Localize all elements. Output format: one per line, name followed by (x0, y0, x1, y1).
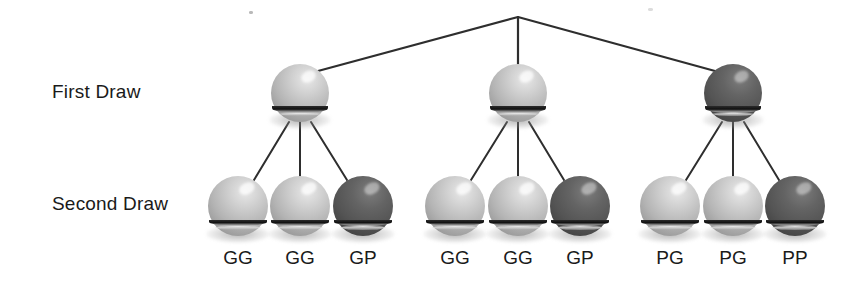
edge-first-to-second-n1-1 (254, 122, 289, 180)
ball-glare (237, 180, 256, 197)
second-draw-ball-9-P (765, 176, 825, 236)
outcome-label-3: GP (323, 247, 403, 269)
ball-belt (551, 217, 609, 231)
ball-belt (426, 217, 484, 231)
ball-glare (362, 180, 381, 197)
second-draw-ball-5-G (488, 176, 548, 236)
ball-glare (299, 180, 318, 197)
ball-belt (334, 217, 392, 231)
second-draw-ball-8-G (703, 176, 763, 236)
ball-glare (299, 68, 317, 85)
ball-glare (517, 180, 536, 197)
ball-belt (271, 217, 329, 231)
first-draw-ball-3-P (704, 64, 762, 122)
first-draw-ball-1-G (271, 64, 329, 122)
ball-glare (517, 68, 535, 85)
scan-speck (648, 8, 653, 11)
edge-first-to-second-n2-1 (471, 122, 507, 180)
ball-belt (766, 217, 824, 231)
ball-belt (641, 217, 699, 231)
ball-belt (490, 103, 546, 116)
edge-first-to-second-n2-3 (529, 122, 564, 180)
second-draw-ball-4-G (425, 176, 485, 236)
edge-root-to-first-draw-1 (318, 17, 518, 71)
second-draw-ball-3-P (333, 176, 393, 236)
ball-belt (209, 217, 267, 231)
second-draw-ball-2-G (270, 176, 330, 236)
ball-belt (272, 103, 328, 116)
ball-belt (705, 103, 761, 116)
edge-root-to-first-draw-3 (518, 17, 715, 71)
edge-first-to-second-n3-3 (744, 122, 779, 180)
first-draw-ball-2-G (489, 64, 547, 122)
outcome-label-6: GP (540, 247, 620, 269)
ball-glare (732, 68, 750, 85)
ball-belt (489, 217, 547, 231)
edge-first-to-second-n3-1 (686, 122, 722, 180)
ball-glare (454, 180, 473, 197)
ball-glare (579, 180, 598, 197)
ball-glare (669, 180, 688, 197)
ball-belt (704, 217, 762, 231)
probability-tree-diagram: First Draw Second Draw GGGGGPGGGGGPPGPGP… (0, 0, 861, 285)
ball-glare (794, 180, 813, 197)
edge-first-to-second-n1-3 (311, 122, 347, 180)
second-draw-ball-7-G (640, 176, 700, 236)
outcome-label-9: PP (755, 247, 835, 269)
second-draw-ball-1-G (208, 176, 268, 236)
scan-speck (249, 11, 253, 14)
second-draw-ball-6-P (550, 176, 610, 236)
ball-glare (732, 180, 751, 197)
